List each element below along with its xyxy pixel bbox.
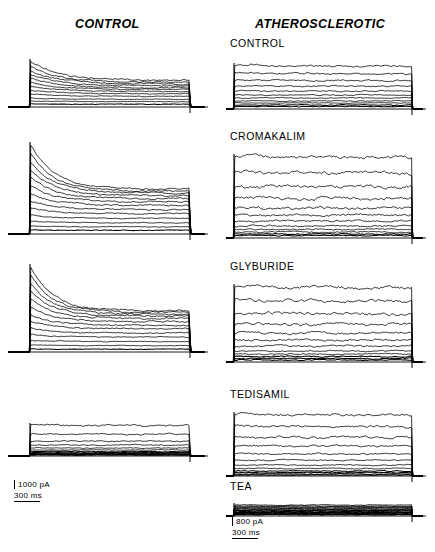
scalebar-time-label: 300 ms	[14, 491, 42, 500]
trace-plot	[226, 406, 426, 484]
trace-plot	[8, 260, 208, 360]
current-trace	[226, 298, 422, 362]
trace-plot	[8, 400, 208, 462]
column-header-control: CONTROL	[75, 17, 140, 31]
current-trace	[226, 64, 422, 109]
panel-label-right-cromakalim: CROMAKALIM	[230, 130, 306, 142]
current-trace	[8, 78, 204, 107]
scalebar-amplitude-label: 800 pA	[236, 517, 263, 526]
current-trace	[226, 413, 422, 476]
trace-plot	[8, 55, 208, 117]
current-trace	[226, 235, 422, 238]
scalebar-time-label: 300 ms	[232, 528, 260, 537]
trace-panel-left-control-1	[8, 55, 208, 117]
figure-canvas: CONTROL ATHEROSCLEROTIC 1000 pA 300 ms 8…	[0, 0, 435, 552]
current-trace	[226, 170, 422, 238]
trace-plot	[226, 148, 426, 246]
current-trace	[8, 201, 204, 234]
current-trace	[8, 98, 204, 107]
trace-panel-right-cromakalim	[226, 148, 426, 246]
current-trace	[226, 225, 422, 238]
current-trace	[8, 145, 204, 234]
trace-panel-right-glyburide	[226, 278, 426, 370]
right-scalebar: 800 pA 300 ms	[232, 517, 263, 537]
current-trace	[226, 436, 422, 476]
scalebar-time-tick	[14, 501, 40, 502]
current-trace	[8, 170, 204, 234]
scalebar-time-tick	[232, 538, 258, 539]
current-trace	[226, 322, 422, 362]
panel-label-right-tea: TEA	[230, 480, 252, 492]
trace-plot	[8, 138, 208, 243]
current-trace	[8, 345, 204, 352]
current-trace	[8, 215, 204, 234]
trace-plot	[226, 55, 426, 117]
trace-panel-right-tedisamil	[226, 406, 426, 484]
trace-plot	[226, 278, 426, 370]
panel-label-right-control: CONTROL	[230, 37, 285, 49]
current-trace	[8, 230, 204, 234]
panel-label-right-glyburide: GLYBURIDE	[230, 260, 294, 272]
panel-label-right-tedisamil: TEDISAMIL	[230, 388, 290, 400]
column-header-atherosclerotic: ATHEROSCLEROTIC	[255, 17, 385, 31]
current-trace	[226, 231, 422, 238]
current-trace	[8, 349, 204, 352]
scalebar-amplitude-label: 1000 pA	[18, 480, 50, 489]
current-trace	[226, 353, 422, 362]
scalebar-amplitude-tick	[232, 517, 233, 526]
trace-panel-left-control-4	[8, 400, 208, 462]
trace-panel-right-control	[226, 55, 426, 117]
scalebar-amplitude-tick	[14, 480, 15, 489]
current-trace	[8, 94, 204, 107]
trace-panel-left-control-3	[8, 260, 208, 360]
current-trace	[8, 221, 204, 234]
current-trace	[8, 104, 204, 107]
current-trace	[8, 328, 204, 353]
left-scalebar: 1000 pA 300 ms	[14, 480, 50, 500]
trace-panel-left-control-2	[8, 138, 208, 243]
current-trace	[8, 267, 204, 352]
